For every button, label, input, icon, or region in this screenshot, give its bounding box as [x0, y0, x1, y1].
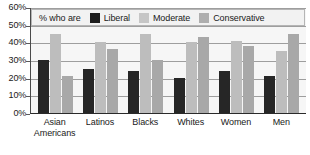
- bar-liberal: [219, 71, 230, 113]
- x-category-label: Blacks: [123, 117, 168, 151]
- bar-liberal: [83, 69, 94, 113]
- y-tick-label: 20%: [9, 74, 26, 83]
- bar-liberal: [128, 71, 139, 113]
- legend-swatch-icon: [199, 13, 209, 23]
- y-tick-label: 60%: [9, 3, 26, 12]
- x-category-label: Women: [213, 117, 258, 151]
- legend-entry-liberal: Liberal: [90, 13, 130, 23]
- bar-conservative: [152, 60, 163, 113]
- x-category-label: Latinos: [77, 117, 122, 151]
- y-tick-label: 10%: [9, 91, 26, 100]
- bar-moderate: [276, 51, 287, 113]
- x-category-label: AsianAmericans: [32, 117, 77, 151]
- bar-chart: 0%10%20%30%40%50%60% % who are LiberalMo…: [0, 0, 310, 155]
- legend-label: Liberal: [104, 13, 130, 23]
- legend-label: Conservative: [213, 13, 264, 23]
- legend-swatch-icon: [90, 13, 100, 23]
- bar-conservative: [62, 76, 73, 113]
- y-tick-label: 0%: [13, 109, 26, 118]
- y-tick-mark: [26, 114, 30, 115]
- legend-prefix-label: % who are: [39, 13, 81, 23]
- legend-entry-conservative: Conservative: [199, 13, 264, 23]
- bar-moderate: [50, 34, 61, 114]
- bar-liberal: [174, 78, 185, 113]
- bar-conservative: [107, 49, 118, 113]
- chart-legend: % who are LiberalModerateConservative: [31, 9, 305, 26]
- bar-moderate: [186, 42, 197, 113]
- x-category-label: Whites: [168, 117, 213, 151]
- y-tick-label: 30%: [9, 56, 26, 65]
- y-tick-label: 40%: [9, 38, 26, 47]
- bar-moderate: [231, 41, 242, 113]
- legend-entry-moderate: Moderate: [139, 13, 190, 23]
- bar-conservative: [198, 37, 209, 113]
- bar-moderate: [140, 34, 151, 114]
- x-category-label: Men: [259, 117, 304, 151]
- bar-moderate: [95, 42, 106, 113]
- bar-conservative: [288, 34, 299, 114]
- y-axis: 0%10%20%30%40%50%60%: [0, 0, 30, 130]
- y-tick-label: 50%: [9, 21, 26, 30]
- x-axis: AsianAmericansLatinosBlacksWhitesWomenMe…: [30, 117, 306, 151]
- bar-liberal: [38, 60, 49, 113]
- bar-liberal: [264, 76, 275, 113]
- legend-label: Moderate: [153, 13, 190, 23]
- legend-swatch-icon: [139, 13, 149, 23]
- bar-conservative: [243, 46, 254, 113]
